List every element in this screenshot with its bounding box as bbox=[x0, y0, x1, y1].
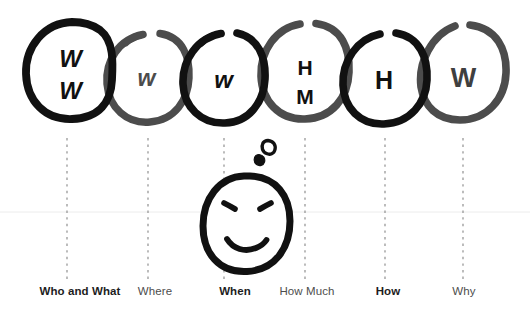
ring-1-letter-w-top: W bbox=[59, 45, 84, 72]
thought-bubble-large-icon bbox=[262, 141, 275, 155]
diagram-canvas: w H M W W W w H bbox=[0, 0, 530, 325]
ring-5-letter-h: H bbox=[375, 66, 393, 94]
thought-bubbles bbox=[254, 141, 275, 166]
ring-1-letter-w-bottom: W bbox=[59, 77, 84, 104]
ring-2-letter-w: w bbox=[138, 65, 158, 91]
ring-4-letter-h: H bbox=[297, 56, 312, 79]
ring-6-why: W bbox=[421, 25, 506, 120]
face-outline bbox=[203, 176, 290, 272]
ring-6-letter-w: W bbox=[451, 63, 477, 93]
ring-1-who-and-what: W W bbox=[26, 22, 113, 119]
ring-3-when: w bbox=[183, 33, 265, 123]
ring-3-letter-w: w bbox=[214, 66, 234, 93]
ring-4-how-much: H M bbox=[261, 24, 349, 120]
ring-5-how: H bbox=[343, 33, 427, 124]
thought-bubble-small-icon bbox=[254, 155, 265, 166]
ring-4-letter-m: M bbox=[296, 85, 314, 108]
smiley-face bbox=[203, 176, 290, 272]
ring-3-gap-arc bbox=[201, 34, 221, 44]
ring-2-where: w bbox=[107, 34, 189, 123]
